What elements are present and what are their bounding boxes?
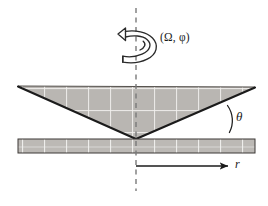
rotation-parameters-label: (Ω, φ) [160,32,190,44]
curved-rotation-arrow-icon [118,28,156,63]
figure-container: (Ω, φ) θ r [0,0,268,206]
cone-angle-label: θ [236,110,242,123]
diagram-canvas [0,0,268,206]
arc-icon [228,106,233,133]
radial-coordinate-label: r [235,158,240,170]
